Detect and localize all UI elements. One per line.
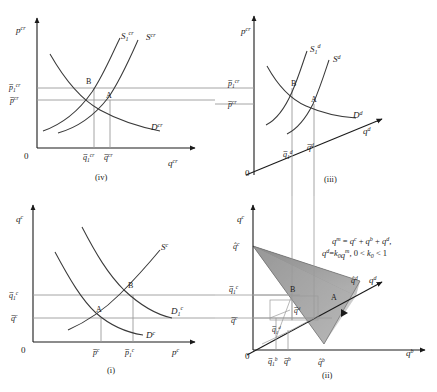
panel-i-curve-D-c [55, 252, 143, 335]
panel-i-label-S-c: Sc [161, 242, 169, 252]
four-panel-diagram: pcr qcr 0 S1cr Scr Dcr B A p̅1cr p̅cr q̅… [0, 0, 437, 392]
panel-iv-xtick-q1: q̅1cr [83, 152, 95, 163]
panel-iv-curve-S-cr [58, 40, 138, 133]
panel-iv-label-D-cr: Dcr [150, 122, 163, 132]
panel-ii-y-axis-label: qc [237, 214, 245, 224]
panel-i-xtick-p: p̅c [92, 347, 100, 357]
panel-ii-xtick-qhat-b: q̂b [318, 357, 325, 367]
panel-iii-ytick-p1: p̅1cr [227, 78, 240, 89]
panel-i: qc pc 0 Sc D1c Dc A B q̅1c q̅c p̅c p̅1c … [9, 205, 215, 375]
panel-ii-innertick-q1-d: q̅1d [272, 325, 281, 335]
panel-iii-label-D-d: Dd [352, 110, 364, 120]
panel-iii-y-axis-label: pcr [240, 26, 251, 36]
panel-iv-y-axis-label: pcr [15, 25, 26, 35]
panel-ii-point-A: A [331, 293, 337, 302]
panel-i-x-axis-label: pc [171, 347, 180, 357]
panel-i-caption: (i) [107, 365, 115, 375]
panel-ii-origin: 0 [245, 351, 250, 361]
panel-iv-label-S1-cr: S1cr [121, 30, 134, 42]
panel-ii-ytick-q-c: q̅c [231, 315, 238, 325]
panel-iii-point-A: A [311, 95, 317, 104]
panel-iii: pcr qd 0 S1d Sd Dd B A p̅1cr p̅cr q̅1d q… [215, 16, 382, 196]
panel-iii-label-S1-d: S1d [310, 43, 322, 55]
panel-i-label-D-c: Dc [145, 330, 156, 340]
panel-iii-caption: (iii) [324, 174, 337, 184]
panel-ii-point-B: B [290, 285, 295, 294]
panel-iv: pcr qcr 0 S1cr Scr Dcr B A p̅1cr p̅cr q̅… [8, 18, 215, 182]
panel-iii-ytick-p: p̅cr [227, 99, 237, 109]
panel-iii-xtick-q1: q̅1d [283, 149, 293, 160]
panel-iv-caption: (iv) [95, 172, 107, 182]
panel-ii-ytick-q1-c: q̅1c [229, 284, 239, 295]
panel-ii-skew-4 [270, 310, 290, 318]
panel-iv-ytick-p1: p̅1cr [8, 82, 21, 93]
panel-iii-xtick-q: q̅d [307, 142, 314, 152]
panel-iii-x-axis-label: qd [363, 126, 372, 136]
panel-i-label-D1-c: D1c [170, 305, 184, 317]
panel-iv-curve-D-cr [50, 54, 160, 131]
panel-iii-label-S-d: Sd [333, 54, 342, 64]
panel-i-point-A: A [96, 305, 102, 314]
panel-iv-ytick-p: p̅cr [9, 95, 19, 105]
panel-ii-equation-line1: qm = qc + qb + qd, [332, 236, 391, 246]
panel-i-point-B: B [128, 281, 133, 290]
panel-i-ytick-q1: q̅1c [9, 290, 19, 301]
panel-iii-curve-S1-d [266, 51, 307, 125]
panel-i-y-axis-label: qc [16, 214, 24, 224]
panel-ii-innertick-q-d: q̅d [294, 306, 301, 315]
panel-ii-xtick-q1-b: q̅1b [268, 356, 278, 367]
panel-iii-curve-S-d [287, 60, 329, 134]
panel-iii-point-B: B [291, 79, 296, 88]
panel-iii-origin: 0 [245, 168, 250, 178]
panel-ii-caption: (ii) [322, 370, 333, 380]
panel-ii: B A qc qb qd 0 q̂c q̅1c q̅c q̅1b q̅b q̂b… [215, 196, 425, 380]
figure-root: pcr qcr 0 S1cr Scr Dcr B A p̅1cr p̅cr q̅… [0, 0, 437, 392]
panel-iv-point-B: B [86, 77, 91, 86]
panel-i-ytick-q: q̅c [11, 313, 18, 323]
panel-ii-equation-line2: qd=k0qm, 0 < k0 < 1 [322, 248, 387, 260]
panel-iv-label-S-cr: Scr [146, 32, 156, 42]
panel-i-xtick-p1: p̅1c [124, 347, 135, 358]
panel-iv-point-A: A [106, 91, 112, 100]
panel-iv-xtick-q: q̅cr [104, 152, 113, 162]
panel-iv-origin: 0 [24, 151, 29, 161]
panel-iv-x-axis-label: qcr [168, 158, 178, 168]
panel-ii-xtick-q-b: q̅b [284, 356, 291, 366]
panel-ii-diag-axis-label: qd [369, 275, 378, 285]
panel-ii-ytick-qhat-c: q̂c [233, 241, 240, 251]
panel-ii-x-axis-label: qb [406, 348, 414, 358]
panel-i-origin: 0 [21, 345, 26, 355]
panel-iv-curve-S1-cr [43, 38, 120, 131]
panel-iii-curve-D-d [267, 66, 356, 118]
